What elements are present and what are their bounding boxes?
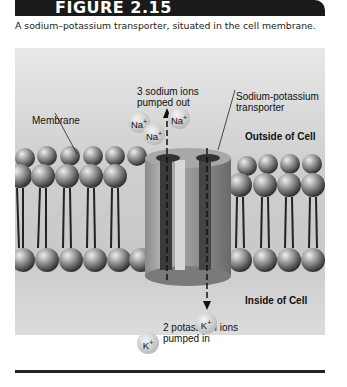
transporter-line2: transporter [236,102,319,113]
potassium-in-line2: pumped in [163,333,238,344]
figure-title: FIGURE 2.15 [55,0,172,17]
transporter-protein [145,148,231,286]
inside-cell-label: Inside of Cell [245,295,307,306]
sodium-out-line2: pumped out [137,97,199,108]
sodium-out-label: 3 sodium ions pumped out [137,86,199,108]
lipid-bilayer-left [15,146,153,272]
transporter-label: Sodium-potassium transporter [236,91,319,113]
lipid-bilayer-right [228,154,325,272]
figure-banner: FIGURE 2.15 [15,0,325,16]
diagram-panel: 3 sodium ions pumped out Sodium-potassiu… [15,48,325,335]
sodium-out-line1: 3 sodium ions [137,86,199,97]
transporter-leader [218,90,235,150]
membrane-label: Membrane [32,115,80,126]
potassium-ion: K+ [195,312,217,334]
sodium-ion: Na+ [168,107,190,129]
transporter-line1: Sodium-potassium [236,91,319,102]
sodium-ion: Na+ [143,123,165,145]
bottom-rule [15,370,325,373]
figure-caption: A sodium–potassium transporter, situated… [15,20,316,31]
potassium-ion: K+ [137,332,159,354]
outside-cell-label: Outside of Cell [245,131,316,142]
